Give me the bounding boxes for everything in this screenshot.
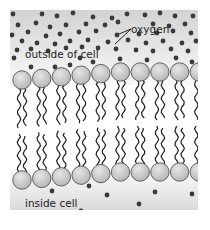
oxygen-molecule: [151, 49, 156, 54]
phospholipid-head: [131, 163, 149, 181]
oxygen-molecule: [191, 14, 196, 19]
oxygen-label: oxygen: [131, 23, 169, 35]
phospholipid-head: [13, 171, 31, 189]
oxygen-molecule: [161, 39, 166, 44]
lipid-tail: [122, 128, 126, 164]
oxygen-molecule: [53, 42, 58, 47]
oxygen-molecule: [79, 209, 84, 214]
oxygen-molecule: [106, 40, 111, 45]
phospholipid-head: [72, 66, 90, 84]
phospholipid-head: [131, 63, 149, 81]
oxygen-molecule: [189, 31, 194, 36]
lipid-tail: [82, 131, 86, 167]
oxygen-molecule: [173, 14, 178, 19]
lipid-tail: [155, 80, 158, 120]
oxygen-molecule: [84, 22, 89, 27]
lipid-tail: [102, 130, 105, 166]
lipid-tail: [181, 128, 184, 164]
lipid-tail: [43, 86, 46, 124]
phospholipid-head: [52, 168, 70, 186]
oxygen-molecule: [190, 60, 195, 65]
lipid-tail: [57, 131, 61, 169]
oxygen-molecule: [171, 29, 176, 34]
oxygen-molecule: [153, 190, 158, 195]
oxygen-molecule: [91, 60, 96, 65]
lipid-tail: [76, 83, 79, 123]
oxygen-molecule: [86, 38, 91, 43]
oxygen-molecule: [134, 48, 139, 53]
lipid-tail: [96, 128, 100, 166]
oxygen-molecule: [91, 15, 96, 20]
oxygen-molecule: [58, 32, 63, 37]
inside-cell-label: inside cell: [25, 197, 78, 209]
lipid-tail: [122, 80, 126, 118]
phospholipid-head: [33, 169, 51, 187]
oxygen-molecule: [29, 65, 34, 70]
lipid-tail: [17, 88, 20, 128]
oxygen-molecule: [194, 39, 199, 44]
oxygen-molecule: [146, 213, 151, 218]
oxygen-molecule: [112, 212, 117, 217]
lipid-tail: [76, 129, 80, 167]
oxygen-molecule: [71, 11, 76, 16]
oxygen-molecule: [184, 213, 189, 218]
oxygen-molecule: [126, 38, 131, 43]
oxygen-molecule: [64, 23, 69, 28]
oxygen-molecule: [180, 41, 185, 46]
oxygen-molecule: [114, 47, 119, 52]
oxygen-molecule: [116, 20, 121, 25]
oxygen-molecule: [20, 39, 25, 44]
phospholipid-head: [92, 164, 110, 182]
lipid-tail: [181, 80, 185, 118]
lipid-tail: [82, 83, 86, 121]
oxygen-molecule: [20, 212, 25, 217]
oxygen-molecule: [186, 49, 191, 54]
oxygen-molecule: [118, 57, 123, 62]
oxygen-molecule: [16, 23, 21, 28]
lipid-tail: [195, 126, 199, 164]
phospholipid-head: [170, 163, 188, 181]
lipid-tail: [135, 80, 139, 120]
lipid-tail: [175, 126, 179, 164]
oxygen-molecule: [115, 33, 120, 38]
outside-of-cell-label: outside of cell: [25, 48, 99, 60]
oxygen-molecule: [94, 29, 99, 34]
oxygen-molecule: [10, 33, 15, 38]
lipid-tail: [135, 126, 139, 164]
oxygen-molecule: [87, 184, 92, 189]
oxygen-molecule: [44, 34, 49, 39]
phospholipid-head: [111, 163, 129, 181]
phospholipid-head: [190, 163, 208, 181]
phospholipid-head: [72, 166, 90, 184]
oxygen-molecule: [145, 58, 150, 63]
phospholipid-head: [151, 63, 169, 81]
lipid-tail: [43, 134, 47, 170]
lipid-tail: [23, 136, 27, 172]
lipid-tails: [17, 80, 204, 172]
lipid-tail: [63, 85, 67, 123]
lipid-tail: [116, 126, 119, 164]
oxygen-molecule: [158, 11, 163, 16]
oxygen-molecule: [34, 21, 39, 26]
lipid-tail: [142, 80, 145, 118]
oxygen-molecule: [105, 193, 110, 198]
lipid-tail: [23, 88, 27, 126]
lipid-tail: [37, 86, 41, 126]
phospholipid-head: [190, 63, 208, 81]
membrane-diagram: oxygen outside of cell inside cell: [0, 0, 210, 230]
oxygen-molecule: [103, 23, 108, 28]
oxygen-molecule: [144, 41, 149, 46]
oxygen-molecule: [143, 13, 148, 18]
lipid-tail: [175, 80, 178, 120]
phospholipid-head: [151, 163, 169, 181]
oxygen-molecule: [174, 56, 179, 61]
oxygen-molecule: [12, 56, 17, 61]
phospholipid-head: [33, 69, 51, 87]
phospholipid-head: [13, 71, 31, 89]
lipid-tail: [195, 80, 199, 120]
lipid-tail: [155, 126, 159, 164]
oxygen-molecule: [15, 48, 20, 53]
oxygen-molecule: [48, 25, 53, 30]
lipid-tail: [161, 80, 165, 118]
oxygen-molecule: [35, 41, 40, 46]
